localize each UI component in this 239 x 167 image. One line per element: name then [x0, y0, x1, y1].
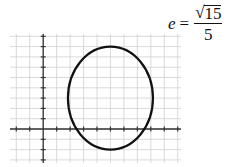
coordinate-plot — [0, 0, 239, 167]
grid-lines — [10, 34, 181, 163]
